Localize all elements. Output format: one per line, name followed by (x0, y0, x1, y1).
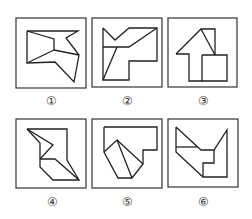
figure-label-2: ② (122, 95, 133, 107)
shape-edge (201, 29, 215, 55)
figure-grid (0, 0, 252, 219)
shape-edge (103, 28, 157, 47)
shape-edge (27, 31, 54, 50)
figure-label-3: ③ (198, 95, 209, 107)
shape-edge (176, 127, 227, 177)
figure-shape (176, 127, 227, 177)
shape-edge (103, 47, 117, 80)
figure-label-6: ⑥ (198, 196, 209, 208)
shape-edge (103, 28, 157, 80)
figure-4 (16, 119, 86, 188)
figure-3 (168, 18, 237, 87)
figure-2 (92, 18, 162, 87)
shape-edge (176, 29, 215, 55)
figure-shape (176, 29, 227, 81)
figure-shape (27, 129, 79, 180)
shape-edge (27, 50, 54, 63)
figure-label-5: ⑤ (122, 196, 133, 208)
shape-edge (176, 54, 202, 81)
figure-shape (104, 127, 157, 178)
figure-6 (168, 119, 238, 187)
shape-edge (202, 55, 227, 81)
shape-edge (203, 150, 214, 177)
shape-edge (117, 140, 143, 164)
figure-1 (16, 18, 86, 88)
figure-label-1: ① (46, 95, 57, 107)
figure-label-4: ④ (47, 196, 58, 208)
figure-5 (92, 119, 162, 188)
figure-shape (27, 31, 79, 82)
figure-shape (103, 28, 157, 80)
